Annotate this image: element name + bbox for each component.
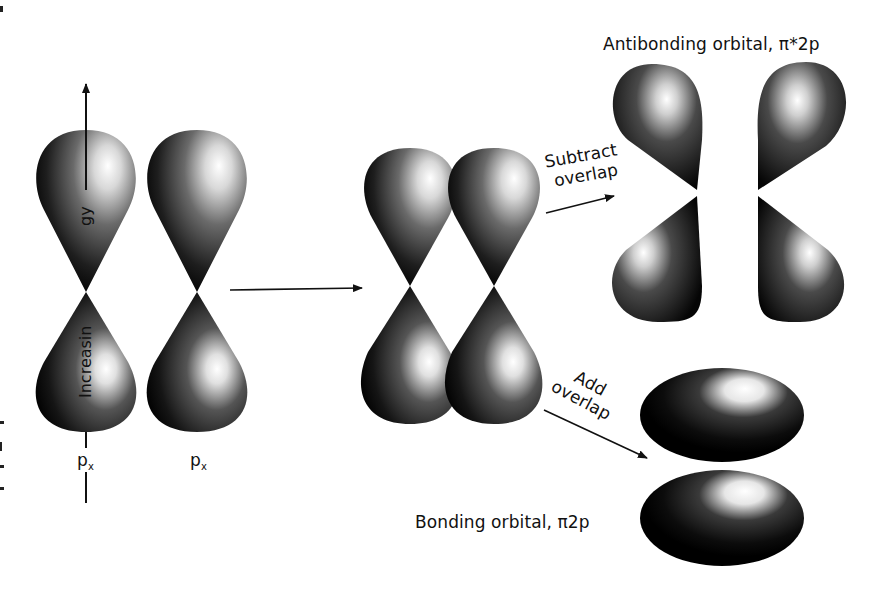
bonding-orbital [640, 368, 804, 566]
edge-mark [0, 6, 3, 12]
lobe-lower [147, 292, 248, 432]
lobe-upper [147, 130, 247, 292]
px-label-main: p [190, 450, 201, 470]
px-label-main: p [77, 450, 88, 470]
energy-axis-label-lower: Increasin [76, 326, 95, 398]
antibonding-title: Antibonding orbital, π*2p [603, 34, 820, 54]
edge-mark [0, 487, 4, 490]
orbital-diagram [0, 0, 883, 596]
px-orbital-right [147, 130, 248, 432]
antibonding-orbital [612, 62, 846, 322]
edge-mark [0, 421, 4, 424]
px-label-left: px [77, 450, 94, 472]
energy-axis-label-upper: gy [76, 206, 95, 226]
edge-mark [0, 442, 2, 451]
px-label-right: px [190, 450, 207, 472]
subtract-arrow [546, 196, 614, 213]
combine-arrow [230, 288, 362, 290]
edge-mark [0, 465, 4, 468]
px-label-sub: x [88, 461, 94, 472]
px-label-sub: x [201, 461, 207, 472]
overlapping-px-orbitals [361, 148, 542, 424]
bonding-title: Bonding orbital, π2p [415, 512, 590, 532]
